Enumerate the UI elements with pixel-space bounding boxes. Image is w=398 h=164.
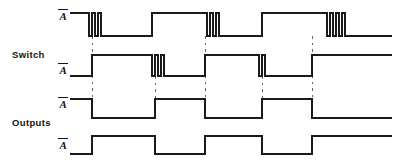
waveform-switch-a-bar xyxy=(70,13,392,36)
signal-label-switch-a-bar: A xyxy=(58,9,68,22)
waveform-output-a-bar xyxy=(70,136,392,154)
waveform-switch-a-bar-2 xyxy=(70,55,392,76)
signal-label-text: A xyxy=(58,97,68,110)
signal-label-output-a: A xyxy=(58,97,68,110)
group-label-switch: Switch xyxy=(12,49,45,60)
signal-label-output-a-bar: A xyxy=(58,138,68,151)
signal-label-switch-a-bar-2: A xyxy=(58,63,68,76)
signal-label-text: A xyxy=(58,138,68,151)
signal-label-text: A xyxy=(58,9,68,22)
signal-label-text: A xyxy=(58,63,68,76)
waveform-output-a xyxy=(70,99,392,118)
group-label-outputs: Outputs xyxy=(12,117,51,128)
timing-diagram-figure: Switch Outputs A A A A xyxy=(0,0,398,164)
signal-traces xyxy=(70,13,392,154)
transition-guide-lines xyxy=(92,36,312,99)
